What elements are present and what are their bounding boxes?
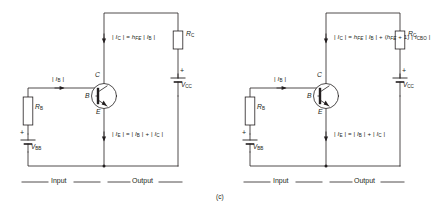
left-base-resistor-label: RB [35, 104, 43, 111]
left-base-current-label: | IB | [52, 76, 64, 83]
left-ie-arrowhead [102, 137, 106, 142]
right-ib-arrowhead [282, 86, 287, 90]
right-base-resistor-body [245, 97, 255, 125]
left-collector-supply-label: VCC [181, 82, 192, 89]
left-base-supply-label: VBB [31, 144, 41, 151]
vcc-subscript: CC [185, 84, 192, 89]
figure-caption: (c) [216, 194, 224, 201]
right-base-current-label: | IB | [274, 76, 286, 83]
right-terminal-c: C [317, 72, 322, 79]
rb-subscript: B [40, 106, 43, 111]
right-ie-arrowhead [324, 137, 328, 142]
left-vbb-polarity: + [20, 129, 24, 136]
left-terminal-c: C [95, 72, 100, 79]
abs-open: | [112, 33, 114, 40]
left-emitter-current-equation: | IE | = | IB | + | IC | [112, 131, 163, 138]
right-vbb-to-ground [250, 152, 326, 166]
right-emitter-current-equation: | IE | = | IB | + | IC | [334, 131, 385, 138]
left-input-section-label: Input [51, 177, 67, 184]
left-collector-resistor-body [173, 31, 183, 49]
left-ib-arrowhead [60, 86, 65, 90]
right-terminal-b: B [307, 93, 312, 100]
abs-close-2: | [154, 33, 156, 40]
right-vcc-polarity: + [402, 67, 406, 74]
figure-canvas: | IC | = hFE | IB | | IE | = | IB | + | … [0, 0, 444, 215]
rc-subscript: C [191, 33, 194, 38]
left-collector-resistor-label: RC [186, 31, 194, 38]
right-base-supply-label: VBB [253, 144, 263, 151]
abs-close: | [123, 33, 125, 40]
left-terminal-b: B [85, 93, 90, 100]
left-vcc-polarity: + [180, 67, 184, 74]
left-output-section-label: Output [132, 177, 153, 184]
right-output-section-label: Output [354, 177, 375, 184]
right-ic-arrowhead [324, 39, 328, 44]
right-collector-supply-label: VCC [403, 82, 414, 89]
left-base-resistor-body [23, 97, 33, 125]
left-ground-node-dot [103, 165, 106, 168]
right-collector-resistor-label: RC [408, 31, 416, 38]
left-vbb-to-ground [28, 152, 104, 166]
equals-sign: = [126, 33, 130, 40]
left-ic-arrowhead [102, 39, 106, 44]
right-vbb-polarity: + [242, 129, 246, 136]
right-input-section-label: Input [273, 177, 289, 184]
right-ground-node-dot [325, 165, 328, 168]
left-terminal-e: E [96, 109, 101, 116]
right-terminal-e: E [318, 109, 323, 116]
abs-open-2: | [143, 33, 145, 40]
left-collector-current-equation: | IC | = hFE | IB | [112, 34, 155, 41]
vbb-subscript: BB [35, 146, 41, 151]
right-base-resistor-label: RB [257, 104, 265, 111]
